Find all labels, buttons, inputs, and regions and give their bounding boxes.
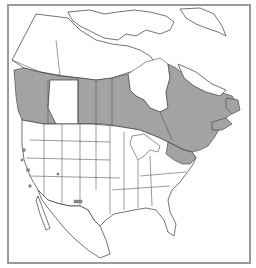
alberta-unshaded — [48, 80, 78, 124]
north-america-range-map — [0, 0, 256, 268]
greenland — [180, 8, 226, 36]
